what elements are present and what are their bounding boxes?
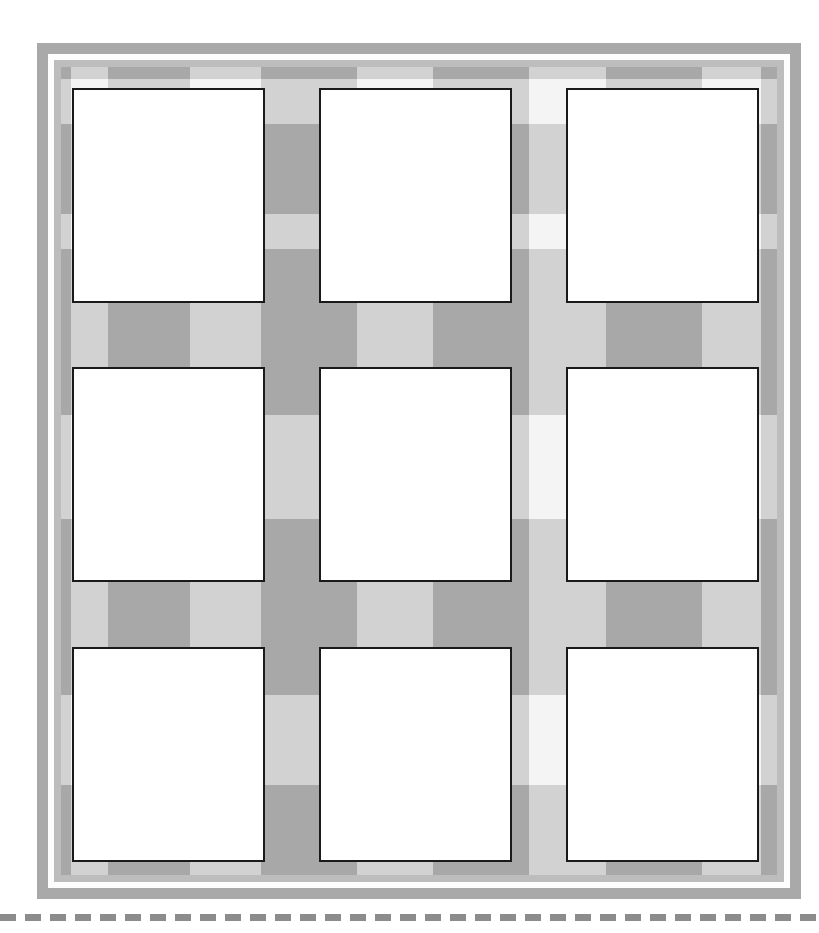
cut-line-dash xyxy=(575,914,591,921)
cut-line-dash xyxy=(625,914,641,921)
sheet-title: Blank Card Grid Sheet xyxy=(0,0,1,1)
card-r2c2[interactable] xyxy=(319,367,512,582)
cut-line-dash xyxy=(500,914,516,921)
plaid-intersection-cell xyxy=(761,67,777,79)
plaid-intersection-cell xyxy=(761,785,777,875)
card-r3c3[interactable] xyxy=(566,647,759,862)
document-page: Blank Card Grid Sheet xyxy=(0,0,819,933)
cut-line-dash xyxy=(700,914,716,921)
cut-line-dash xyxy=(25,914,41,921)
plaid-intersection-cell xyxy=(761,595,777,695)
cut-line-dash xyxy=(725,914,741,921)
cut-line-dash xyxy=(250,914,266,921)
cut-line-dash xyxy=(150,914,166,921)
card-r1c1[interactable] xyxy=(72,88,265,303)
cut-line-dash xyxy=(175,914,191,921)
plaid-intersection-cell xyxy=(61,315,71,415)
card-r2c1[interactable] xyxy=(72,367,265,582)
cut-line-dash xyxy=(100,914,116,921)
cut-line-dash xyxy=(325,914,341,921)
cut-line-dash xyxy=(750,914,766,921)
cut-line-dash xyxy=(75,914,91,921)
plaid-intersection-cell xyxy=(761,315,777,415)
card-grid xyxy=(0,0,819,933)
card-r1c3[interactable] xyxy=(566,88,759,303)
plaid-intersection-cell xyxy=(761,124,777,214)
cut-line-dash xyxy=(800,914,816,921)
plaid-intersection-cell xyxy=(61,785,71,875)
cut-line-dash xyxy=(125,914,141,921)
cut-line-dash xyxy=(675,914,691,921)
cut-line-dash xyxy=(525,914,541,921)
plaid-intersection-cell xyxy=(261,67,357,79)
cut-line-dash xyxy=(450,914,466,921)
plaid-intersection-cell xyxy=(433,67,529,79)
cut-line-dash xyxy=(550,914,566,921)
cut-line-dash xyxy=(275,914,291,921)
plaid-intersection-cell xyxy=(61,595,71,695)
card-r3c2[interactable] xyxy=(319,647,512,862)
cut-line-dash xyxy=(650,914,666,921)
card-r1c2[interactable] xyxy=(319,88,512,303)
cut-line-dash xyxy=(350,914,366,921)
cut-line-dash xyxy=(475,914,491,921)
cut-line-dash xyxy=(200,914,216,921)
cut-line-dash xyxy=(300,914,316,921)
plaid-intersection-cell xyxy=(606,67,702,79)
cut-line-dash xyxy=(425,914,441,921)
plaid-intersection-cell xyxy=(61,67,71,79)
cut-line-dash xyxy=(50,914,66,921)
card-r2c3[interactable] xyxy=(566,367,759,582)
cut-line-dash xyxy=(225,914,241,921)
card-r3c1[interactable] xyxy=(72,647,265,862)
cut-line-dash xyxy=(600,914,616,921)
cut-line-dash xyxy=(400,914,416,921)
cut-line-dash xyxy=(375,914,391,921)
cut-here-dashed-line xyxy=(0,914,819,921)
plaid-intersection-cell xyxy=(61,124,71,214)
cut-line-dash xyxy=(775,914,791,921)
plaid-intersection-cell xyxy=(108,67,190,79)
cut-line-dash xyxy=(0,914,16,921)
